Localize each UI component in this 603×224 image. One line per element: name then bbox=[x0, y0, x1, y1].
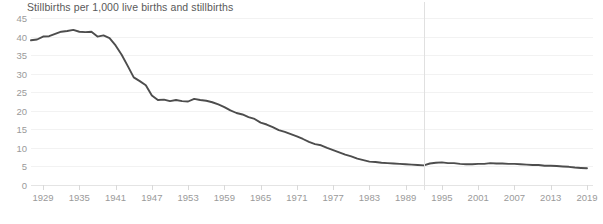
x-tick-label: 1983 bbox=[359, 192, 380, 203]
y-axis: 051015202530354045 bbox=[0, 18, 31, 185]
x-tick-label: 1941 bbox=[105, 192, 126, 203]
x-tick-mark bbox=[116, 185, 117, 190]
x-tick-label: 1971 bbox=[286, 192, 307, 203]
x-tick-mark bbox=[79, 185, 80, 190]
x-tick-mark bbox=[406, 185, 407, 190]
x-tick-label: 2013 bbox=[540, 192, 561, 203]
chart-title: Stillbirths per 1,000 live births and st… bbox=[27, 1, 233, 13]
series-line bbox=[31, 30, 587, 168]
y-tick-label: 35 bbox=[16, 50, 27, 61]
y-tick-label: 20 bbox=[16, 105, 27, 116]
x-tick-mark bbox=[333, 185, 334, 190]
x-tick-mark bbox=[551, 185, 552, 190]
x-tick-mark bbox=[478, 185, 479, 190]
y-tick-label: 5 bbox=[22, 161, 27, 172]
x-tick-label: 1989 bbox=[395, 192, 416, 203]
x-tick-mark bbox=[442, 185, 443, 190]
x-tick-label: 1935 bbox=[69, 192, 90, 203]
x-tick-label: 1965 bbox=[250, 192, 271, 203]
y-tick-label: 40 bbox=[16, 31, 27, 42]
x-tick-mark bbox=[224, 185, 225, 190]
definition-change-marker bbox=[424, 2, 425, 190]
x-axis: 1929193519411947195319591965197119771983… bbox=[31, 185, 593, 224]
x-tick-label: 1953 bbox=[178, 192, 199, 203]
y-tick-label: 0 bbox=[22, 180, 27, 191]
x-tick-label: 1977 bbox=[323, 192, 344, 203]
y-tick-label: 15 bbox=[16, 124, 27, 135]
y-tick-label: 30 bbox=[16, 68, 27, 79]
x-tick-mark bbox=[188, 185, 189, 190]
x-tick-mark bbox=[587, 185, 588, 190]
x-tick-mark bbox=[297, 185, 298, 190]
y-tick-label: 45 bbox=[16, 13, 27, 24]
x-tick-label: 1995 bbox=[431, 192, 452, 203]
plot-area bbox=[31, 18, 593, 185]
x-tick-label: 1929 bbox=[33, 192, 54, 203]
stillbirths-line-chart: Stillbirths per 1,000 live births and st… bbox=[0, 0, 603, 224]
x-tick-label: 1947 bbox=[141, 192, 162, 203]
series-stillbirth-rate bbox=[31, 18, 593, 185]
x-tick-label: 2019 bbox=[576, 192, 597, 203]
x-tick-label: 2001 bbox=[468, 192, 489, 203]
x-tick-mark bbox=[261, 185, 262, 190]
x-tick-mark bbox=[152, 185, 153, 190]
x-tick-label: 1959 bbox=[214, 192, 235, 203]
y-tick-label: 10 bbox=[16, 142, 27, 153]
x-tick-mark bbox=[43, 185, 44, 190]
x-tick-label: 2007 bbox=[504, 192, 525, 203]
x-tick-mark bbox=[369, 185, 370, 190]
x-tick-mark bbox=[514, 185, 515, 190]
y-tick-label: 25 bbox=[16, 87, 27, 98]
